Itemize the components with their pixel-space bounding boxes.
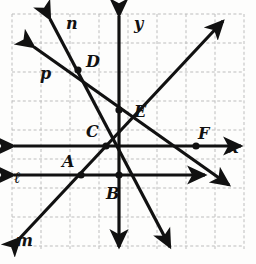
- figure-canvas: [0, 0, 256, 264]
- line-m-label: m: [16, 233, 33, 249]
- point-E-dot: [115, 106, 122, 113]
- point-E-label: E: [134, 104, 146, 120]
- point-A-label: A: [62, 154, 74, 170]
- line-p-label: p: [40, 66, 51, 82]
- x-axis-label: x: [229, 140, 239, 156]
- line-n-label: n: [66, 16, 78, 32]
- point-D-dot: [74, 66, 81, 73]
- point-A-dot: [77, 171, 84, 178]
- point-B-label: B: [106, 186, 120, 202]
- point-F-label: F: [198, 126, 209, 142]
- point-C-label: C: [86, 124, 99, 140]
- point-B-dot: [115, 171, 122, 178]
- y-axis-label: y: [134, 16, 143, 32]
- line-l-label: ℓ: [14, 170, 21, 186]
- line-n: [50, 19, 170, 247]
- point-F-dot: [192, 142, 199, 149]
- geometry-figure: xyℓmnpABCDEF: [0, 0, 256, 264]
- point-D-label: D: [86, 54, 100, 70]
- point-C-dot: [102, 142, 109, 149]
